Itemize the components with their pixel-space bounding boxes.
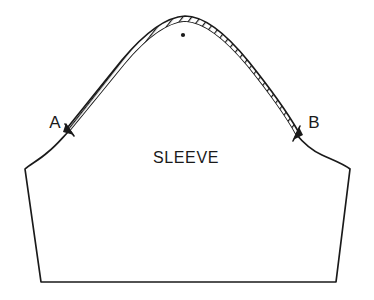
- sleeve-pattern-canvas: A B SLEEVE: [0, 0, 374, 300]
- piece-name-label: SLEEVE: [153, 149, 219, 166]
- notch-label-b: B: [308, 113, 319, 132]
- notch-label-a: A: [49, 113, 61, 132]
- shoulder-point-dot: [181, 33, 185, 37]
- sleeve-pattern-diagram: A B SLEEVE: [0, 0, 374, 300]
